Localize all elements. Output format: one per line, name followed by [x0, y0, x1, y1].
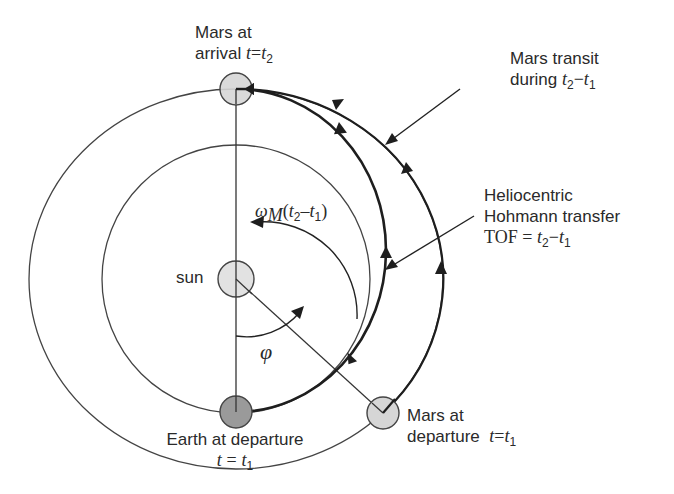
transfer-arrowhead-icon	[380, 246, 392, 258]
mars-arrival-label: Mars at arrival t=t2	[195, 22, 273, 70]
hohmann-transfer-label: Heliocentric Hohmann transfer TOF = t2−t…	[484, 185, 620, 254]
transit-arrowhead-icon	[435, 261, 447, 274]
omega-angle-arc	[258, 222, 357, 319]
hohmann-pointer	[390, 216, 474, 267]
phi-angle-label: φ	[260, 341, 272, 362]
hohmann-transfer-arc	[236, 89, 386, 412]
sun-label: sun	[176, 267, 203, 288]
mars-departure-label: Mars at departure t=t1	[407, 405, 516, 453]
transit-arrowhead-icon	[401, 162, 413, 174]
mars-transit-label: Mars transit during t2−t1	[510, 48, 599, 96]
transfer-arrowhead-icon	[344, 350, 357, 365]
earth-departure-label: Earth at departure t = t1	[155, 429, 315, 477]
omega-angle-label: ωM(t2–t1)	[255, 201, 327, 228]
mars-transit-pointer	[390, 89, 460, 141]
sun-mars-departure-line	[236, 279, 383, 413]
mars-transit-pointer-arrowhead-icon	[385, 133, 398, 145]
phi-angle-arc	[236, 312, 300, 337]
transit-arrowhead-icon	[332, 99, 344, 110]
phi-arrowhead-icon	[291, 306, 304, 319]
